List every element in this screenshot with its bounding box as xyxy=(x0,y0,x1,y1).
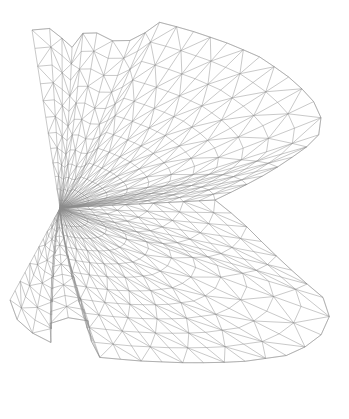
upper-sheet-mesh xyxy=(32,22,321,208)
wireframe-figure xyxy=(0,0,349,419)
wireframe-mesh xyxy=(0,0,349,419)
lower-sheet-mesh xyxy=(10,200,329,363)
